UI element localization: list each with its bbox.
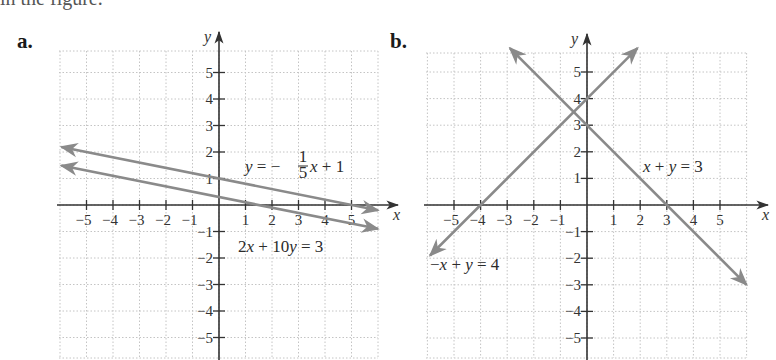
y-tick-label: −1 <box>197 224 213 240</box>
x-tick-label: −1 <box>182 212 198 228</box>
y-axis-label: y <box>202 28 212 46</box>
y-tick-label: −2 <box>197 250 213 266</box>
y-tick-label: −1 <box>565 224 581 240</box>
equation-label-a1-rest: x + 1 <box>309 157 344 176</box>
equation-label-b2: −x + y = 4 <box>430 255 500 274</box>
y-tick-label: 5 <box>206 65 214 81</box>
y-tick-label: 1 <box>574 170 582 186</box>
x-tick-label: −5 <box>76 212 92 228</box>
x-tick-label: −3 <box>129 212 145 228</box>
x-tick-label: −2 <box>155 212 171 228</box>
y-tick-label: −5 <box>565 330 581 346</box>
y-tick-label: −3 <box>565 277 581 293</box>
x-tick-label: 3 <box>663 212 671 228</box>
graph-a: −5−4−3−2−11234554321−1−2−3−4−5xy <box>57 28 400 360</box>
series-line <box>510 48 747 285</box>
x-axis-label: x <box>761 206 769 223</box>
y-tick-label: 2 <box>206 144 214 160</box>
y-tick-label: −4 <box>197 303 213 319</box>
chart-canvas: −5−4−3−2−11234554321−1−2−3−4−5xy −5−4−3−… <box>0 0 776 360</box>
x-tick-label: 4 <box>690 212 698 228</box>
graph-b: −5−4−3−2−11234554321−1−2−3−4−5xy <box>424 30 769 360</box>
x-tick-label: 5 <box>716 212 724 228</box>
y-tick-label: −3 <box>197 277 213 293</box>
x-tick-label: 1 <box>610 212 618 228</box>
y-tick-label: 1 <box>206 171 214 187</box>
y-tick-label: 4 <box>206 91 214 107</box>
equation-label-b1: x + y = 3 <box>642 157 703 176</box>
y-tick-label: −5 <box>197 330 213 346</box>
equation-label-a1: y = − <box>243 157 280 176</box>
x-tick-label: −5 <box>443 212 459 228</box>
equation-label-a2: 2x + 10y = 3 <box>238 237 323 256</box>
x-axis-label: x <box>392 206 400 223</box>
y-tick-label: 2 <box>574 144 582 160</box>
y-axis-label: y <box>569 30 579 48</box>
fraction-denominator: 5 <box>299 163 308 182</box>
x-tick-label: 5 <box>348 212 356 228</box>
x-tick-label: 2 <box>636 212 644 228</box>
y-tick-label: −4 <box>565 303 581 319</box>
x-tick-label: 1 <box>242 212 250 228</box>
y-tick-label: −2 <box>565 250 581 266</box>
y-tick-label: 5 <box>574 64 582 80</box>
x-tick-label: −4 <box>102 212 118 228</box>
x-tick-label: 2 <box>268 212 276 228</box>
x-tick-label: −3 <box>496 212 512 228</box>
y-tick-label: 3 <box>206 118 214 134</box>
x-tick-label: −1 <box>549 212 565 228</box>
x-tick-label: −2 <box>523 212 539 228</box>
